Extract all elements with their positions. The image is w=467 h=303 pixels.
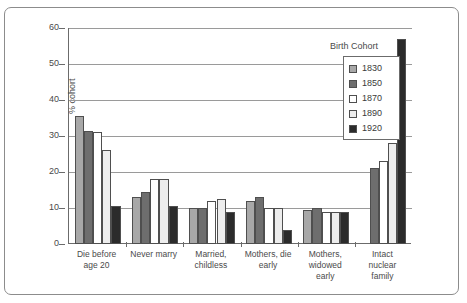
legend-swatch-icon (349, 80, 357, 88)
y-axis-tick (59, 28, 65, 29)
bar (274, 208, 283, 244)
y-axis-tick (59, 244, 65, 245)
bar (331, 212, 340, 244)
legend-item[interactable]: 1920 (349, 121, 399, 136)
x-axis-category-label: Never marry (125, 249, 182, 260)
bar-group (241, 28, 298, 244)
bar (217, 199, 226, 244)
bar (370, 168, 379, 244)
bar (303, 210, 312, 244)
legend-item[interactable]: 1830 (349, 61, 399, 76)
legend-item[interactable]: 1850 (349, 76, 399, 91)
bar-group (69, 28, 126, 244)
x-axis-labels: Die beforeage 20Never marryMarried,child… (68, 249, 411, 297)
legend-title: Birth Cohort (330, 41, 378, 51)
bar (207, 201, 216, 244)
bar (132, 197, 141, 244)
bar (340, 212, 349, 244)
chart-frame: % cohort 0102030405060 Die beforeage 20N… (4, 7, 459, 295)
y-axis-tick-label: 40 (25, 95, 59, 104)
bar (246, 201, 255, 244)
bar-group (126, 28, 183, 244)
legend-label: 1890 (362, 109, 382, 118)
y-axis-tick (59, 136, 65, 137)
bar (283, 230, 292, 244)
bar (75, 116, 84, 244)
x-axis-category-label: Intactnuclearfamily (354, 249, 411, 282)
legend-label: 1920 (362, 124, 382, 133)
bar (111, 206, 120, 244)
y-axis-tick (59, 172, 65, 173)
bar (150, 179, 159, 244)
legend-item[interactable]: 1870 (349, 91, 399, 106)
y-axis-tick-label: 60 (25, 23, 59, 32)
x-axis-tick (355, 242, 356, 247)
bar (198, 208, 207, 244)
x-axis-category-label: Mothers,widowedearly (297, 249, 354, 282)
x-axis-category-label: Die beforeage 20 (68, 249, 125, 271)
x-axis-tick (183, 242, 184, 247)
bar (255, 197, 264, 244)
legend-label: 1870 (362, 94, 382, 103)
y-axis-tick-label: 30 (25, 131, 59, 140)
legend-label: 1830 (362, 64, 382, 73)
chart-page: % cohort 0102030405060 Die beforeage 20N… (0, 0, 467, 303)
y-axis-tick-label: 50 (25, 59, 59, 68)
x-axis-tick (298, 242, 299, 247)
bar (159, 179, 168, 244)
bar (141, 192, 150, 244)
x-axis-tick (126, 242, 127, 247)
bar (322, 212, 331, 244)
y-axis-tick (59, 64, 65, 65)
legend-swatch-icon (349, 125, 357, 133)
x-axis-tick (241, 242, 242, 247)
bar (93, 132, 102, 244)
y-axis-tick-label: 10 (25, 203, 59, 212)
bar (312, 208, 321, 244)
x-axis-category-label: Mothers, dieearly (240, 249, 297, 271)
bar (388, 143, 397, 244)
bar (169, 206, 178, 244)
bar-group (183, 28, 240, 244)
bar (102, 150, 111, 244)
legend-swatch-icon (349, 65, 357, 73)
y-axis-tick-label: 0 (25, 239, 59, 248)
x-axis-category-label: Married,childless (182, 249, 239, 271)
legend-swatch-icon (349, 110, 357, 118)
y-axis-tick (59, 208, 65, 209)
y-axis-tick (59, 100, 65, 101)
bar (226, 212, 235, 244)
legend-label: 1850 (362, 79, 382, 88)
bar (264, 208, 273, 244)
legend-item[interactable]: 1890 (349, 106, 399, 121)
bar (84, 131, 93, 244)
legend-swatch-icon (349, 95, 357, 103)
y-axis-tick-label: 20 (25, 167, 59, 176)
bar (379, 161, 388, 244)
legend: 18301850187018901920 (343, 56, 400, 140)
bar (189, 208, 198, 244)
